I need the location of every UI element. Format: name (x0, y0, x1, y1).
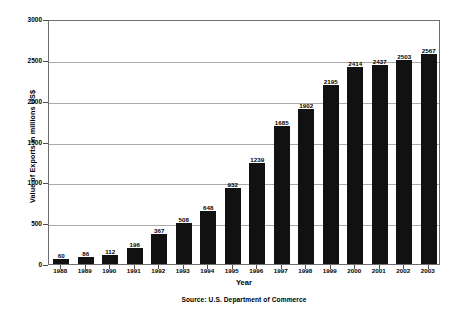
bar[interactable] (225, 188, 241, 264)
x-axis-tick-mark (281, 265, 282, 269)
x-axis-tick-mark (256, 265, 257, 269)
source-note: Source: U.S. Department of Commerce (48, 296, 440, 303)
bar[interactable] (78, 257, 94, 264)
bar-value-label: 2567 (409, 47, 449, 54)
y-axis-tick-mark (43, 265, 48, 266)
x-axis-tick-mark (85, 265, 86, 269)
bar-value-label: 932 (213, 181, 253, 188)
bar[interactable] (396, 60, 412, 264)
x-axis-tick-mark (134, 265, 135, 269)
bar[interactable] (323, 85, 339, 264)
x-axis-tick-mark (109, 265, 110, 269)
bar-value-label: 2195 (311, 78, 351, 85)
bar[interactable] (347, 67, 363, 264)
y-axis-tick-label: 3000 (0, 15, 48, 25)
x-axis-tick-mark (158, 265, 159, 269)
y-axis-tick-label: 1000 (0, 178, 48, 188)
plot-area: 6086112196367508648932123916851902219524… (48, 20, 440, 265)
bar-chart-figure: Value of Exports in millions US$ 0500100… (0, 0, 465, 315)
bar-value-label: 1239 (237, 156, 277, 163)
bar-value-label: 508 (164, 216, 204, 223)
y-axis-tick-label: 1500 (0, 138, 48, 148)
bar[interactable] (176, 223, 192, 264)
bar[interactable] (372, 65, 388, 264)
bar[interactable] (274, 126, 290, 264)
bar-value-label: 1685 (262, 119, 302, 126)
bar-value-label: 367 (139, 227, 179, 234)
x-axis-tick-mark (305, 265, 306, 269)
x-axis-tick-mark (330, 265, 331, 269)
x-axis-tick-mark (60, 265, 61, 269)
bar[interactable] (298, 109, 314, 264)
y-axis-tick-label: 2000 (0, 97, 48, 107)
bar[interactable] (421, 54, 437, 264)
x-axis-tick-mark (354, 265, 355, 269)
bar[interactable] (102, 255, 118, 264)
bar[interactable] (249, 163, 265, 264)
bar-value-label: 112 (90, 248, 130, 255)
x-axis-tick-mark (183, 265, 184, 269)
x-axis-title: Year (48, 278, 440, 287)
bar-value-label: 196 (115, 241, 155, 248)
x-axis-tick-mark (207, 265, 208, 269)
bar-value-label: 1902 (286, 102, 326, 109)
bar[interactable] (200, 211, 216, 264)
x-axis-tick-mark (428, 265, 429, 269)
x-axis-tick-mark (403, 265, 404, 269)
bar[interactable] (151, 234, 167, 264)
y-axis-tick-label: 2500 (0, 56, 48, 66)
bar[interactable] (127, 248, 143, 264)
x-axis-tick-mark (232, 265, 233, 269)
x-axis-tick-mark (379, 265, 380, 269)
y-axis-tick-label: 500 (0, 219, 48, 229)
bar[interactable] (53, 259, 69, 264)
bar-value-label: 648 (188, 204, 228, 211)
